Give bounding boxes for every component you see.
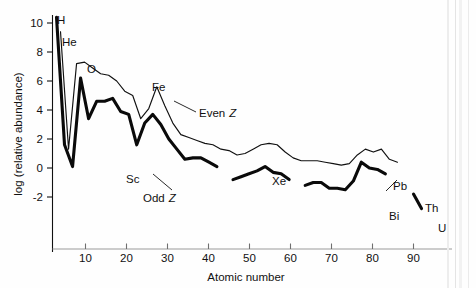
label-Sc: Sc [126, 173, 140, 185]
y-tick-label-6: 6 [37, 75, 43, 87]
label-U: U [438, 222, 446, 234]
x-tick-label-30: 30 [161, 252, 174, 264]
x-tick-label-90: 90 [407, 252, 420, 264]
label-odd-z-text: Odd [143, 192, 165, 204]
x-tick-label-70: 70 [325, 252, 338, 264]
label-Xe: Xe [272, 175, 286, 187]
x-tick-label-60: 60 [284, 252, 297, 264]
abundance-chart-svg: 10 8 6 4 2 0 -2 log (relative abundance)… [0, 0, 476, 288]
label-Pb: Pb [393, 180, 407, 192]
label-H: H [57, 14, 65, 26]
y-tick-label-4: 4 [37, 104, 44, 116]
label-even-z: EvenZ [199, 107, 237, 119]
y-tick-label-2: 2 [37, 133, 43, 145]
x-tick-label-10: 10 [79, 252, 92, 264]
y-tick-label-8: 8 [37, 46, 43, 58]
label-odd-z-symbol: Z [168, 192, 177, 204]
y-axis: 10 8 6 4 2 0 -2 log (relative abundance) [12, 15, 53, 252]
label-Th: Th [425, 202, 438, 214]
curve-th-u [413, 194, 421, 209]
x-axis: 10 20 30 40 50 60 70 80 90 Atomic number [53, 244, 453, 284]
x-tick-label-80: 80 [366, 252, 379, 264]
y-tick-label-minus2: -2 [33, 191, 43, 203]
label-Fe: Fe [152, 81, 165, 93]
y-tick-label-10: 10 [30, 17, 43, 29]
x-axis-title: Atomic number [207, 271, 285, 283]
annotations: H He O Fe Sc Xe Pb Bi Th U EvenZ OddZ [57, 14, 446, 234]
y-tick-label-0: 0 [37, 162, 43, 174]
label-Bi: Bi [389, 210, 399, 222]
odd-z-leader-line [153, 174, 172, 190]
label-even-z-text: Even [199, 107, 225, 119]
data-curves [57, 17, 422, 208]
even-z-leader-line [174, 101, 196, 112]
y-axis-title: log (relative abundance) [12, 72, 24, 196]
label-odd-z: OddZ [143, 192, 177, 204]
x-tick-label-20: 20 [120, 252, 133, 264]
x-tick-label-50: 50 [243, 252, 256, 264]
label-O: O [87, 63, 96, 75]
label-even-z-symbol: Z [228, 107, 237, 119]
figure-container: 10 8 6 4 2 0 -2 log (relative abundance)… [0, 0, 476, 288]
x-tick-label-40: 40 [202, 252, 215, 264]
label-He: He [62, 36, 77, 48]
